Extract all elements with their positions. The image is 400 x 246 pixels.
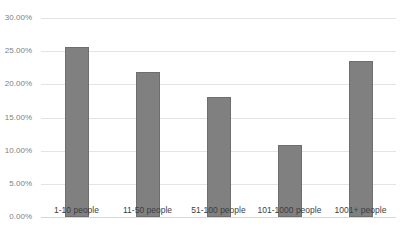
- x-axis-tick-label: 51-100 people: [183, 205, 254, 215]
- gridline: [41, 18, 396, 19]
- y-axis-tick-label: 10.00%: [0, 147, 32, 155]
- gridline: [41, 217, 396, 218]
- x-axis-tick-label: 1001+ people: [325, 205, 396, 215]
- y-axis-tick-label: 25.00%: [0, 47, 32, 55]
- y-axis-tick-label: 5.00%: [0, 180, 32, 188]
- x-axis-tick-label: 101-1000 people: [254, 205, 325, 215]
- y-axis-tick-label: 30.00%: [0, 14, 32, 22]
- bar[interactable]: [65, 47, 89, 217]
- x-axis-tick-label: 11-50 people: [112, 205, 183, 215]
- plot-area: 0.00%5.00%10.00%15.00%20.00%25.00%30.00%: [41, 18, 396, 217]
- bar-chart: 0.00%5.00%10.00%15.00%20.00%25.00%30.00%…: [0, 0, 400, 246]
- y-axis-tick-label: 20.00%: [0, 80, 32, 88]
- gridline: [41, 84, 396, 85]
- gridline: [41, 51, 396, 52]
- chart-title-cropped: [0, 0, 400, 5]
- bar[interactable]: [136, 72, 160, 217]
- x-axis-tick-label: 1-10 people: [41, 205, 112, 215]
- y-axis-tick-label: 15.00%: [0, 114, 32, 122]
- bar[interactable]: [349, 61, 373, 217]
- y-axis-tick-label: 0.00%: [0, 213, 32, 221]
- bar[interactable]: [207, 97, 231, 217]
